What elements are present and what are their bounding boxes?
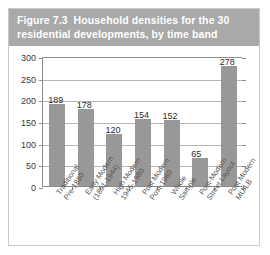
gridline	[43, 80, 242, 81]
y-axis-tick-right	[242, 80, 246, 81]
figure-title-banner: Figure 7.3Household densities for the 30…	[9, 9, 259, 46]
bar-value-label: 65	[191, 149, 201, 159]
y-axis-tick	[39, 123, 43, 124]
bar-value-label: 120	[105, 125, 120, 135]
y-axis-tick	[39, 80, 43, 81]
y-axis-tick-label: 0	[31, 183, 36, 193]
y-axis-tick-right	[242, 58, 246, 59]
y-axis-tick-right	[242, 123, 246, 124]
y-axis-tick-label: 250	[21, 75, 36, 85]
figure-title-line-1: Figure 7.3Household densities for the 30	[17, 13, 252, 27]
y-axis-tick-label: 200	[21, 96, 36, 106]
figure-title-text-1: Household densities for the 30	[74, 14, 230, 26]
bar-value-label: 154	[134, 110, 149, 120]
y-axis-tick-label: 300	[21, 53, 36, 63]
figure-container: Figure 7.3Household densities for the 30…	[8, 8, 260, 246]
y-axis-tick	[39, 58, 43, 59]
y-axis-tick-right	[242, 101, 246, 102]
y-axis-tick-label: 100	[21, 140, 36, 150]
y-axis-tick-label: 150	[21, 118, 36, 128]
y-axis-tick	[39, 188, 43, 189]
bar-value-label: 189	[48, 95, 63, 105]
figure-number: Figure 7.3	[17, 14, 68, 26]
bar-value-label: 178	[77, 100, 92, 110]
chart-area: 050100150200250300 18917812015415265278 …	[9, 46, 261, 246]
y-axis-tick-label: 50	[26, 161, 36, 171]
y-axis-tick	[39, 145, 43, 146]
gridline	[43, 101, 242, 102]
bar-value-label: 278	[220, 57, 235, 67]
y-axis-tick-right	[242, 145, 246, 146]
figure-title-line-2: residential developments, by time band	[17, 27, 252, 41]
bar	[49, 104, 65, 186]
bar-value-label: 152	[163, 111, 178, 121]
y-axis-tick	[39, 166, 43, 167]
y-axis-tick	[39, 101, 43, 102]
